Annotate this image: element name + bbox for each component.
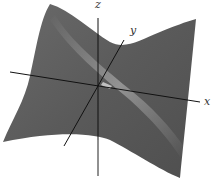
x-axis-label: x bbox=[204, 95, 211, 108]
y-axis-label: y bbox=[129, 24, 137, 37]
z-axis-label: z bbox=[94, 0, 101, 11]
saddle-diagram: z y x bbox=[0, 0, 214, 184]
saddle-surface bbox=[3, 4, 196, 178]
